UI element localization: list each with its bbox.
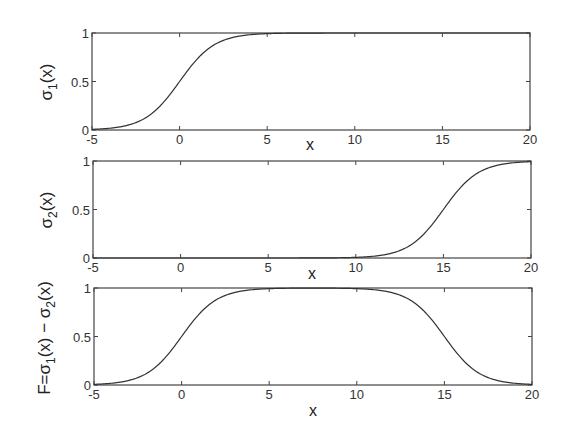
y-tick-label: 0.5: [71, 75, 89, 90]
y-tick-label: 0: [84, 378, 91, 393]
x-tick-label: 15: [436, 260, 450, 275]
y-tick-label: 1: [82, 26, 89, 41]
ticks: [94, 288, 532, 385]
plot-frame: [93, 161, 531, 258]
x-tick-label: 5: [266, 387, 273, 402]
x-axis-label: x: [309, 402, 317, 419]
x-tick-label: 0: [178, 387, 185, 402]
panel-sigma2: -505101520 00.51 x σ2(x): [37, 154, 538, 282]
y-tick-label: 0: [82, 123, 89, 138]
ticks: [93, 161, 531, 258]
y-tick-label: 1: [84, 281, 91, 296]
plot-frame: [92, 33, 530, 130]
x-tick-labels: -505101520: [88, 387, 539, 402]
x-tick-label: 10: [350, 387, 364, 402]
sigma2-curve: [93, 162, 531, 258]
y-tick-labels: 00.51: [73, 281, 91, 393]
y-tick-label: 0.5: [73, 330, 91, 345]
y-axis-label: σ2(x): [37, 191, 60, 228]
x-tick-label: 0: [176, 132, 183, 147]
x-tick-label: 20: [523, 132, 537, 147]
y-tick-labels: 00.51: [71, 26, 89, 138]
x-axis-label: x: [306, 136, 314, 153]
difference-curve: [94, 288, 532, 384]
x-tick-label: 20: [524, 260, 538, 275]
ticks: [92, 33, 530, 130]
plot-frame: [94, 288, 532, 385]
x-tick-label: 15: [437, 387, 451, 402]
x-tick-label: 5: [265, 260, 272, 275]
y-axis-label: F=σ1(x) − σ2(x): [35, 281, 58, 395]
y-tick-label: 1: [83, 154, 90, 169]
x-tick-label: 0: [177, 260, 184, 275]
y-axis-label: σ1(x): [37, 63, 60, 100]
chart-canvas: -505101520 00.51 x σ1(x) -505101520 00.5…: [0, 0, 564, 428]
x-tick-label: 15: [435, 132, 449, 147]
y-tick-labels: 00.51: [72, 154, 90, 266]
x-tick-label: 20: [525, 387, 539, 402]
x-axis-label: x: [308, 265, 316, 282]
sigma1-curve: [92, 33, 530, 129]
y-tick-label: 0.5: [72, 203, 90, 218]
panel-sigma1: -505101520 00.51 x σ1(x): [37, 26, 537, 153]
x-tick-label: 10: [348, 132, 362, 147]
panel-difference: -505101520 00.51 x F=σ1(x) − σ2(x): [35, 281, 539, 419]
x-tick-label: 10: [349, 260, 363, 275]
x-tick-label: 5: [264, 132, 271, 147]
y-tick-label: 0: [83, 251, 90, 266]
